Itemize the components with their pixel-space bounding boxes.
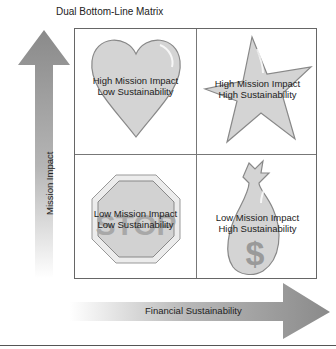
quadrant-low-mission-high-sustainability: $ Low Mission Impact High Sustainability: [197, 155, 318, 280]
quadrant-line1: High Mission Impact: [75, 75, 196, 86]
quadrant-line2: Low Sustainability: [75, 219, 196, 230]
matrix-title: Dual Bottom-Line Matrix: [56, 6, 163, 17]
quadrant-line2: High Sustainability: [197, 223, 318, 234]
quadrant-line1: Low Mission Impact: [75, 208, 196, 219]
quadrant-line1: High Mission Impact: [197, 78, 318, 89]
quadrant-line2: High Sustainability: [197, 89, 318, 100]
bottom-rule: [0, 345, 336, 346]
x-axis-label: Financial Sustainability: [145, 305, 242, 316]
y-axis-label: Mission Impact: [44, 152, 55, 215]
quadrant-line1: Low Mission Impact: [197, 212, 318, 223]
quadrant-high-mission-high-sustainability: High Mission Impact High Sustainability: [197, 29, 318, 154]
quadrant-line2: Low Sustainability: [75, 86, 196, 97]
matrix-grid: High Mission Impact Low Sustainability H…: [74, 28, 317, 279]
quadrant-high-mission-low-sustainability: High Mission Impact Low Sustainability: [75, 29, 196, 154]
dollar-sign: $: [246, 234, 265, 272]
quadrant-low-mission-low-sustainability: STOP Low Mission Impact Low Sustainabili…: [75, 155, 196, 280]
